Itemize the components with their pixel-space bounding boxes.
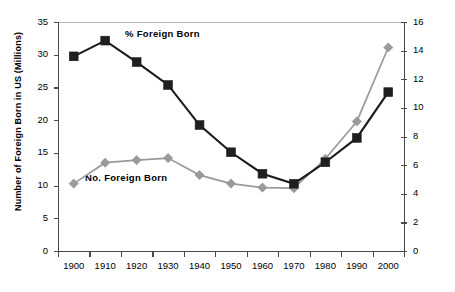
data-point bbox=[258, 183, 267, 192]
series-line-foreign-born bbox=[74, 41, 389, 184]
right-tick-label-8: 8 bbox=[413, 130, 435, 141]
x-axis-line bbox=[58, 251, 406, 252]
x-tick-mark bbox=[373, 252, 374, 257]
data-point bbox=[321, 158, 330, 167]
x-tick-mark bbox=[58, 252, 59, 257]
left-tick-mark bbox=[54, 120, 59, 121]
left-tick-label-30: 30 bbox=[26, 48, 48, 59]
chart-container: Number of Foreign Born in US (Millions) … bbox=[0, 0, 455, 292]
data-point bbox=[195, 171, 204, 180]
x-tick-mark bbox=[404, 252, 405, 257]
x-tick-mark bbox=[184, 252, 185, 257]
plot-area bbox=[0, 0, 455, 292]
data-point bbox=[101, 36, 110, 45]
x-tick-mark bbox=[89, 252, 90, 257]
left-tick-label-0: 0 bbox=[26, 245, 48, 256]
left-tick-mark bbox=[54, 153, 59, 154]
data-point bbox=[352, 134, 361, 143]
x-tick-mark bbox=[121, 252, 122, 257]
right-tick-mark bbox=[401, 194, 407, 195]
data-point bbox=[132, 58, 141, 67]
left-tick-mark bbox=[54, 22, 59, 23]
data-point bbox=[258, 169, 267, 178]
right-tick-label-16: 16 bbox=[413, 16, 435, 27]
right-tick-label-2: 2 bbox=[413, 216, 435, 227]
right-tick-label-14: 14 bbox=[413, 44, 435, 55]
data-point bbox=[101, 158, 110, 167]
left-tick-label-15: 15 bbox=[26, 146, 48, 157]
x-tick-mark bbox=[152, 252, 153, 257]
right-tick-label-4: 4 bbox=[413, 187, 435, 198]
right-tick-label-10: 10 bbox=[413, 101, 435, 112]
x-tick-mark bbox=[278, 252, 279, 257]
left-tick-mark bbox=[54, 87, 59, 88]
left-axis-line bbox=[58, 22, 59, 251]
left-tick-mark bbox=[54, 218, 59, 219]
left-tick-label-5: 5 bbox=[26, 212, 48, 223]
data-point bbox=[384, 88, 393, 97]
left-tick-label-25: 25 bbox=[26, 81, 48, 92]
x-tick-mark bbox=[310, 252, 311, 257]
x-tick-mark bbox=[247, 252, 248, 257]
left-tick-mark bbox=[54, 186, 59, 187]
right-tick-mark bbox=[401, 51, 407, 52]
right-tick-mark bbox=[401, 222, 407, 223]
x-tick-mark bbox=[215, 252, 216, 257]
data-point bbox=[69, 52, 78, 61]
x-tick-mark bbox=[341, 252, 342, 257]
left-tick-label-20: 20 bbox=[26, 114, 48, 125]
right-tick-mark bbox=[401, 108, 407, 109]
data-point bbox=[195, 121, 204, 130]
left-tick-mark bbox=[54, 55, 59, 56]
series-line-no-foreign-born bbox=[74, 48, 389, 189]
right-tick-mark bbox=[401, 22, 407, 23]
data-point bbox=[227, 148, 236, 157]
right-tick-mark bbox=[401, 79, 407, 80]
data-point bbox=[164, 81, 173, 90]
left-tick-label-10: 10 bbox=[26, 179, 48, 190]
data-point bbox=[132, 155, 141, 164]
left-tick-label-35: 35 bbox=[26, 16, 48, 27]
right-tick-mark bbox=[401, 165, 407, 166]
right-tick-label-6: 6 bbox=[413, 159, 435, 170]
x-tick-label-2000: 2000 bbox=[368, 260, 408, 271]
right-tick-label-12: 12 bbox=[413, 73, 435, 84]
right-tick-label-0: 0 bbox=[413, 245, 435, 256]
right-tick-mark bbox=[401, 137, 407, 138]
top-rule bbox=[58, 22, 404, 23]
data-point bbox=[290, 179, 299, 188]
data-point bbox=[384, 43, 393, 52]
data-point bbox=[163, 153, 172, 162]
data-point bbox=[226, 179, 235, 188]
data-point bbox=[69, 179, 78, 188]
